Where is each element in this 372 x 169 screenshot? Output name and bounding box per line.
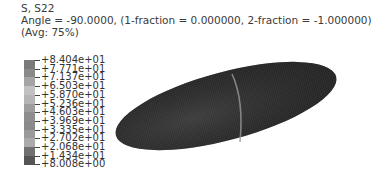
ellipsoid-body — [107, 44, 345, 169]
